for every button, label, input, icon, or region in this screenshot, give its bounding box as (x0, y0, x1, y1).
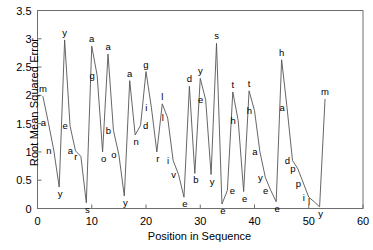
data-point-label: e (230, 185, 235, 196)
data-point-label: a (127, 68, 133, 79)
data-point-label: a (279, 102, 285, 113)
data-point-label: o (101, 153, 106, 164)
data-point-label: g (90, 70, 95, 81)
data-point-label: a (41, 117, 47, 128)
data-point-label: r (74, 151, 77, 162)
data-point-label: e (62, 120, 67, 131)
plot-frame (38, 11, 364, 209)
x-tick-label: 10 (86, 215, 98, 227)
data-point-label: i (167, 155, 169, 166)
x-tick-label: 0 (34, 215, 40, 227)
x-axis-title: Position in Sequence (148, 230, 251, 242)
x-tick-label: 60 (357, 215, 369, 227)
data-point-label: e (275, 203, 280, 214)
data-point-label: e (263, 185, 268, 196)
data-point-label: n (134, 136, 139, 147)
data-point-label: o (111, 149, 116, 160)
x-tick-label: 40 (248, 215, 260, 227)
data-point-label: i (303, 192, 305, 203)
data-point-label: y (198, 65, 203, 76)
data-point-label: d (143, 120, 148, 131)
data-point-label: l (308, 196, 310, 207)
y-axis-title: Root Mean Squared Error (28, 7, 40, 197)
y-tick-label: 0 (25, 203, 31, 215)
data-point-label: e (198, 94, 203, 105)
data-line (43, 40, 325, 207)
data-point-label: e (242, 193, 247, 204)
data-point-label: y (210, 176, 215, 187)
data-point-label: r (156, 153, 159, 164)
data-point-label: s (85, 204, 90, 215)
data-point-label: y (318, 208, 323, 219)
data-point-label: y (123, 197, 128, 208)
data-point-label: d (187, 73, 192, 84)
data-point-label: n (46, 145, 51, 156)
data-point-label: y (58, 188, 63, 199)
x-tick-label: 20 (140, 215, 152, 227)
chart-figure: Root Mean Squared Error Position in Sequ… (0, 0, 373, 250)
data-point-label: y (258, 172, 263, 183)
data-point-label: p (290, 163, 295, 174)
data-point-label: b (106, 125, 111, 136)
data-point-label: y (62, 27, 67, 38)
data-point-label: h (279, 47, 284, 58)
plot-area: 00.511.522.533.5 0102030405060 manyyears… (0, 0, 373, 250)
data-point-label: h (231, 115, 236, 126)
data-point-label: e (182, 198, 187, 209)
x-axis-title-wrap: Position in Sequence (0, 230, 373, 242)
data-point-label: h (247, 105, 252, 116)
data-point-label: l (161, 91, 163, 102)
data-point-label: a (68, 145, 74, 156)
data-point-label: i (145, 102, 147, 113)
data-point-label: g (143, 59, 148, 70)
data-point-label: a (252, 146, 258, 157)
data-point-label: m (39, 83, 47, 94)
x-tick-label: 30 (194, 215, 206, 227)
data-point-label: v (171, 169, 176, 180)
data-point-label: s (214, 30, 219, 41)
data-point-label: a (105, 41, 111, 52)
data-point-label: e (220, 205, 225, 216)
x-tick-label: 50 (303, 215, 315, 227)
data-point-label: b (193, 174, 198, 185)
data-point-label: t (231, 79, 234, 90)
data-point-label: t (248, 78, 251, 89)
data-point-label: a (89, 33, 95, 44)
data-point-label: l (162, 112, 164, 123)
data-point-label: m (321, 86, 329, 97)
data-point-label: p (296, 178, 301, 189)
